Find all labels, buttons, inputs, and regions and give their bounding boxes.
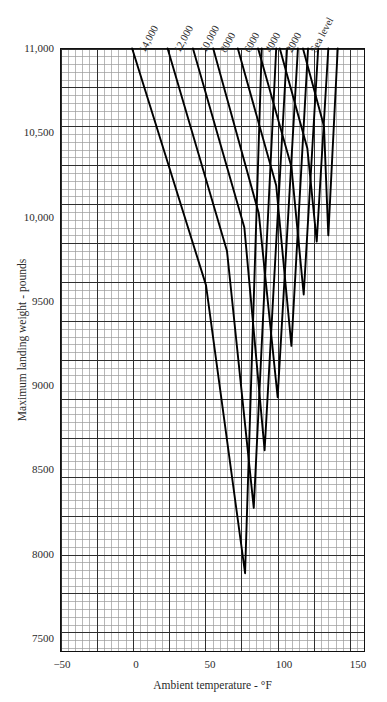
y-tick-10500: 10,500 (8, 127, 54, 138)
y-tick-8000: 8000 (8, 549, 54, 560)
y-tick-8500: 8500 (8, 464, 54, 475)
plot-border (61, 49, 365, 652)
x-tick-minus50: −50 (40, 659, 84, 670)
major-gridlines (61, 49, 365, 652)
y-tick-10000: 10,000 (8, 212, 54, 223)
y-tick-7500: 7500 (8, 633, 54, 644)
x-tick-100: 100 (262, 659, 306, 670)
y-axis-title: Maximum landing weight - pounds (16, 230, 28, 450)
minor-gridlines (61, 49, 365, 652)
x-tick-0: 0 (114, 659, 158, 670)
x-tick-50: 50 (188, 659, 232, 670)
landing-weight-chart: 11,000 10,500 10,000 9500 9000 8500 8000… (0, 0, 387, 702)
y-tick-9500: 9500 (8, 296, 54, 307)
curve-14-000 (132, 49, 262, 574)
data-curves (132, 49, 338, 574)
x-axis-title: Ambient temperature - °F (60, 679, 365, 691)
chart-plot-area (0, 0, 387, 702)
y-tick-9000: 9000 (8, 380, 54, 391)
x-tick-150: 150 (336, 659, 380, 670)
y-tick-11000: 11,000 (8, 43, 54, 54)
